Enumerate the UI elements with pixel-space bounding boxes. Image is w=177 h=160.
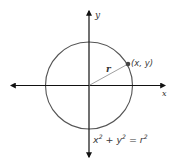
eq-x-exp: 2 [99, 133, 103, 140]
eq-plus: + [105, 134, 113, 145]
y-axis-label: y [94, 10, 101, 20]
circle-equation: x2+y2=r2 [92, 133, 148, 145]
circle-equation-diagram: y x r (x, y) x2+y2=r2 [0, 0, 177, 160]
point-marker [126, 62, 131, 67]
eq-y-exp: 2 [122, 133, 126, 140]
x-axis-label: x [162, 89, 167, 98]
point-label: (x, y) [131, 58, 153, 68]
radius-label: r [106, 64, 112, 74]
eq-equals: = [129, 134, 137, 145]
eq-r-exp: 2 [144, 133, 148, 140]
